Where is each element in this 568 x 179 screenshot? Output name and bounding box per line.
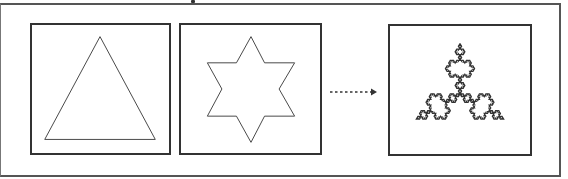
koch-snowflake-shape	[390, 26, 530, 154]
panel-star	[179, 23, 322, 155]
star-shape	[181, 25, 320, 153]
dotted-arrow-icon	[329, 87, 379, 97]
panel-triangle	[30, 23, 171, 155]
frame-mark	[191, 0, 195, 3]
panel-snowflake	[388, 24, 532, 156]
triangle-shape	[32, 25, 169, 153]
